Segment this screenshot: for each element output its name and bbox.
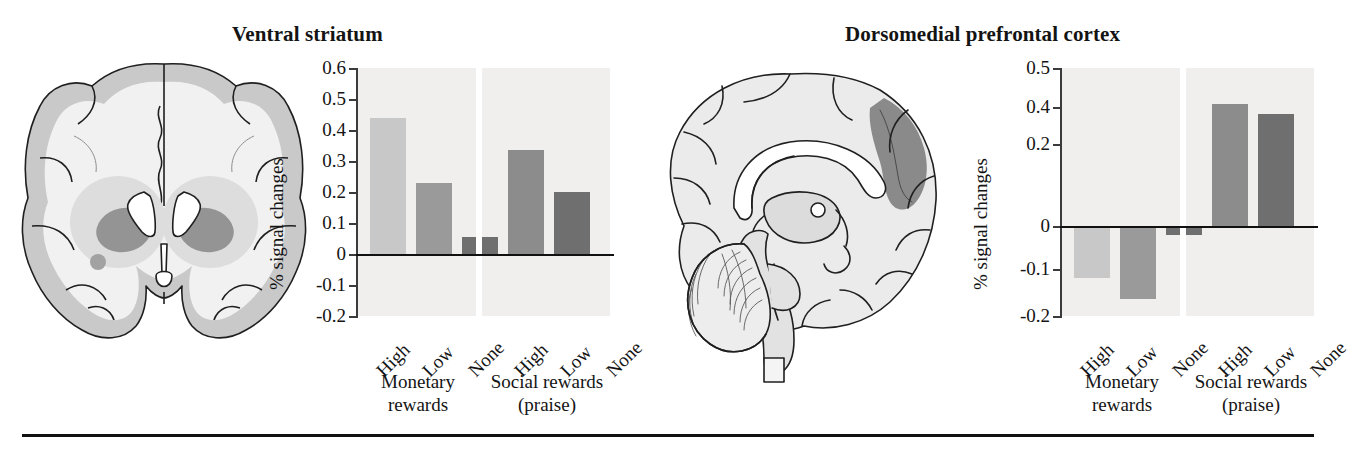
group-label-social: Social rewards (praise) [480, 370, 614, 416]
y-tick-0.5 [1053, 68, 1062, 70]
panel-title-ventral-striatum: Ventral striatum [232, 22, 383, 47]
y-tick-0.5 [349, 99, 358, 101]
y-tick-0.1 [349, 223, 358, 225]
bar-social-low [554, 192, 590, 254]
y-tick-label-0.3: 0.3 [292, 151, 346, 170]
y-tick-label--0.1: -0.1 [292, 275, 346, 294]
y-tick-0.3 [349, 161, 358, 163]
bar-monetary-low [1120, 226, 1156, 299]
y-tick-label-0: 0 [996, 216, 1050, 235]
panel-gap [1180, 68, 1186, 316]
y-tick--0.2 [349, 316, 358, 318]
plot-background-social [482, 68, 610, 316]
group-label-monetary: Monetary rewards [1062, 370, 1182, 416]
panel-title-dorsomedial-prefrontal-cortex: Dorsomedial prefrontal cortex [845, 22, 1120, 47]
y-tick-label-0.4: 0.4 [292, 120, 346, 139]
y-tick--0.1 [349, 285, 358, 287]
y-tick-label--0.1: -0.1 [996, 259, 1050, 278]
y-axis-title: % signal changes [266, 158, 288, 290]
zero-line [1060, 226, 1318, 228]
y-tick-label-0.1: 0.1 [292, 213, 346, 232]
chart-ventral-striatum: 0.6 0.5 0.4 0.3 0.2 0.1 0 -0.1 -0.2 % si… [296, 60, 626, 440]
y-tick--0.1 [1053, 269, 1062, 271]
group-label-social: Social rewards (praise) [1184, 370, 1318, 416]
y-tick-0.4 [1053, 107, 1062, 109]
y-tick-0.4 [349, 130, 358, 132]
group-label-monetary: Monetary rewards [358, 370, 478, 416]
y-tick-label-0.6: 0.6 [292, 58, 346, 77]
bottom-divider [22, 434, 1314, 437]
y-tick-label-0.2: 0.2 [292, 182, 346, 201]
y-tick-label-0: 0 [292, 244, 346, 263]
y-tick-label--0.2: -0.2 [292, 306, 346, 325]
bar-social-high [508, 150, 544, 254]
panel-gap [476, 68, 482, 316]
bar-monetary-low [416, 183, 452, 254]
chart-dorsomedial-prefrontal-cortex: 0.5 0.4 0.2 0 -0.1 -0.2 % signal changes… [1000, 60, 1330, 440]
y-axis-line [1060, 68, 1062, 316]
y-tick-label--0.2: -0.2 [996, 306, 1050, 325]
y-tick-0.2 [349, 192, 358, 194]
zero-line [356, 254, 614, 256]
bar-monetary-high [1074, 226, 1110, 278]
y-tick-label-0.5: 0.5 [292, 89, 346, 108]
bar-social-low [1258, 114, 1294, 226]
bar-monetary-high [370, 118, 406, 254]
y-tick-0.6 [349, 68, 358, 70]
y-tick-label-0.4: 0.4 [996, 97, 1050, 116]
y-tick-label-0.2: 0.2 [996, 134, 1050, 153]
sagittal-brain-illustration [622, 58, 970, 388]
y-axis-title: % signal changes [970, 158, 992, 290]
y-tick--0.2 [1053, 316, 1062, 318]
y-tick-0.2 [1053, 144, 1062, 146]
plot-background-social [1186, 68, 1314, 316]
y-tick-label-0.5: 0.5 [996, 58, 1050, 77]
bar-social-high [1212, 104, 1248, 227]
